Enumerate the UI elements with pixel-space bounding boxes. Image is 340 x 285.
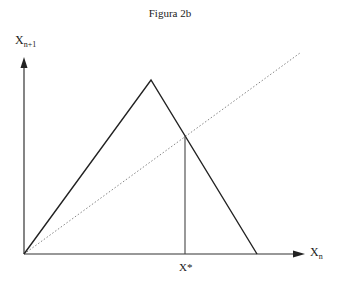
- tent-map-curve: [24, 80, 257, 254]
- x-axis-arrow-icon: [293, 251, 305, 258]
- identity-line: [24, 53, 300, 254]
- y-axis-arrow-icon: [21, 57, 28, 68]
- tent-map-diagram: [0, 0, 340, 285]
